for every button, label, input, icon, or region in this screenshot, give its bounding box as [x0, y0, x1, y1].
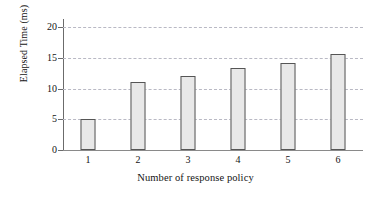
x-tick-label: 3: [163, 154, 213, 166]
bar-chart-figure: Elapsed Time (ms) 05101520 123456 Number…: [0, 0, 391, 198]
bar[interactable]: [331, 54, 346, 150]
bar[interactable]: [281, 63, 296, 150]
x-tick-label: 1: [63, 154, 113, 166]
bar-slot: [213, 22, 263, 150]
y-axis-title: Elapsed Time (ms): [18, 0, 29, 105]
y-tick-label: 10: [47, 84, 57, 94]
y-tick-label: 15: [47, 53, 57, 63]
bar[interactable]: [231, 68, 246, 150]
bar-slot: [263, 22, 313, 150]
bar-slot: [313, 22, 363, 150]
x-tick-label: 5: [263, 154, 313, 166]
plot-area: 05101520: [63, 22, 363, 151]
bar-slot: [163, 22, 213, 150]
x-ticks-layer: 123456: [63, 154, 363, 168]
x-tick-label: 2: [113, 154, 163, 166]
bars-layer: [63, 22, 363, 150]
bar[interactable]: [181, 76, 196, 150]
y-tick-mark-0: [58, 150, 63, 151]
bar-slot: [113, 22, 163, 150]
bar-slot: [63, 22, 113, 150]
x-tick-label: 4: [213, 154, 263, 166]
y-tick-label: 5: [52, 114, 57, 124]
x-axis-spine: [63, 150, 363, 151]
x-tick-label: 6: [313, 154, 363, 166]
bar[interactable]: [131, 82, 146, 150]
y-tick-label: 20: [47, 22, 57, 32]
bar[interactable]: [81, 119, 96, 150]
y-tick-label: 0: [52, 145, 57, 155]
x-axis-title: Number of response policy: [0, 172, 391, 183]
